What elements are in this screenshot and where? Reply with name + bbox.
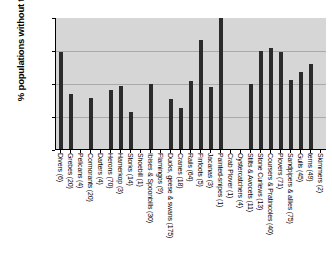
x-axis-label: Sandpipers & allies (75) [287,153,294,224]
x-label-slot: Shoebill (1) [135,153,145,271]
bar-series [56,18,326,149]
bar-slot [196,18,206,149]
x-axis-label: Stilts & Avocets (11) [247,153,254,212]
bar [249,84,253,150]
x-label-slot: Coursers & Pratincoles (40) [265,153,275,271]
x-axis-label: Ibises & Spoonbills (30) [147,153,154,223]
bar-slot [276,18,286,149]
x-axis-label: Crab Plover (1) [227,153,234,198]
bar [199,40,203,149]
x-label-slot: Hamerkop (3) [115,153,125,271]
bar [189,81,193,149]
x-label-slot: Grebes (20) [65,153,75,271]
bar-slot [106,18,116,149]
x-axis-label: Rails (64) [187,153,194,181]
plot-area [55,18,326,150]
bar-slot [286,18,296,149]
x-label-slot: Herons (70) [105,153,115,271]
bar [89,98,93,149]
bar [149,84,153,150]
bar-slot [256,18,266,149]
x-axis-label: Painted-snipes (1) [217,153,224,207]
bar-slot [186,18,196,149]
x-label-slot: Crab Plover (1) [225,153,235,271]
x-axis-label: Hamerkop (3) [117,153,124,194]
bar-slot [216,18,226,149]
x-axis-label: Shoebill (1) [137,153,144,187]
x-axis-labels: Divers (6)Grebes (20)Pelicans (4)Cormora… [55,153,325,271]
bar-slot [136,18,146,149]
x-axis-label: Coursers & Pratincoles (40) [267,153,274,235]
x-label-slot: Stone Curlews (13) [255,153,265,271]
x-label-slot: Rails (64) [185,153,195,271]
bar [309,64,313,149]
bar-slot [156,18,166,149]
x-label-slot: Plovers (71) [275,153,285,271]
bar-slot [246,18,256,149]
bar-slot [76,18,86,149]
x-label-slot: Cranes (18) [175,153,185,271]
bar-slot [316,18,326,149]
x-axis-label: Herons (70) [107,153,114,188]
x-axis-label: Cormorants (20) [87,153,94,202]
bar [269,48,273,149]
bar-slot [226,18,236,149]
x-label-slot: Painted-snipes (1) [215,153,225,271]
bar [109,90,113,149]
x-axis-label: Ducks, geese & swans (175) [167,153,174,238]
x-axis-label: Skimmers (2) [317,153,324,193]
bar-slot [306,18,316,149]
bar [259,51,263,149]
bar [169,99,173,149]
bar [299,72,303,149]
x-label-slot: Oystercatchers (4) [235,153,245,271]
bar-slot [86,18,96,149]
x-label-slot: Cormorants (20) [85,153,95,271]
bar [209,87,213,149]
bar-slot [56,18,66,149]
x-axis-label: Jacanas (3) [207,153,214,188]
x-axis-label: Darters (4) [97,153,104,185]
bar [289,80,293,149]
x-label-slot: Storks (14) [125,153,135,271]
bar-slot [166,18,176,149]
bar [119,86,123,149]
x-label-slot: Ducks, geese & swans (175) [165,153,175,271]
x-axis-label: Flamingos (9) [157,153,164,194]
x-label-slot: Ibises & Spoonbills (30) [145,153,155,271]
x-label-slot: Flamingos (9) [155,153,165,271]
bar-slot [116,18,126,149]
x-axis-label: terns (49) [307,153,314,181]
x-axis-label: Gulls (45) [297,153,304,182]
bar [279,52,283,149]
x-label-slot: terns (49) [305,153,315,271]
bar-slot [206,18,216,149]
bar-slot [236,18,246,149]
x-label-slot: Jacanas (3) [205,153,215,271]
x-axis-label: Grebes (20) [67,153,74,189]
x-axis-label: Finfoots (5) [197,153,204,187]
bar [59,52,63,149]
bar-slot [66,18,76,149]
bar-slot [146,18,156,149]
bar [219,18,223,149]
bar-slot [266,18,276,149]
x-axis-label: Divers (6) [57,153,64,182]
x-label-slot: Divers (6) [55,153,65,271]
bar [69,94,73,149]
bar-slot [176,18,186,149]
x-axis-label: Plovers (71) [277,153,284,189]
x-axis-label: Stone Curlews (13) [257,153,264,210]
x-axis-label: Pelicans (4) [77,153,84,188]
x-label-slot: Gulls (45) [295,153,305,271]
x-axis-label: Oystercatchers (4) [237,153,244,208]
x-label-slot: Finfoots (5) [195,153,205,271]
x-axis-label: Storks (14) [127,153,134,186]
x-label-slot: Stilts & Avocets (11) [245,153,255,271]
bar [129,112,133,149]
x-label-slot: Darters (4) [95,153,105,271]
bar-slot [96,18,106,149]
bar [179,108,183,149]
bar-chart: % populations without trend 100 75 50 25… [0,0,332,271]
x-label-slot: Sandpipers & allies (75) [285,153,295,271]
